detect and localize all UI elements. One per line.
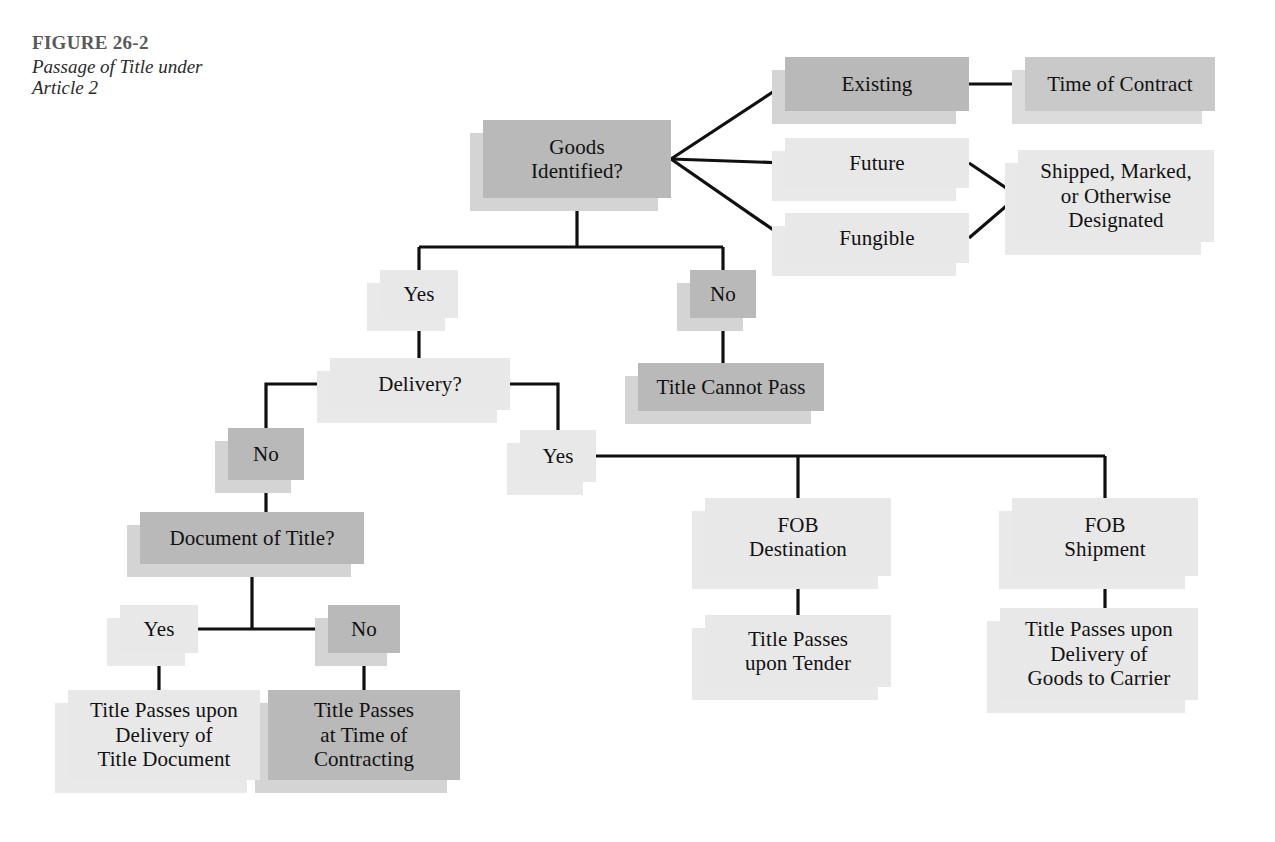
node-label: No: [247, 442, 285, 466]
figure-canvas: FIGURE 26-2 Passage of Title under Artic…: [0, 0, 1275, 842]
node-label: Title Passes upon Delivery of Title Docu…: [84, 698, 244, 771]
node-no-identified[interactable]: No: [690, 270, 756, 318]
node-fob-shipment[interactable]: FOB Shipment: [1012, 498, 1198, 576]
node-yes-document[interactable]: Yes: [120, 605, 198, 653]
node-label: Title Passes at Time of Contracting: [308, 698, 420, 771]
node-title-cannot-pass[interactable]: Title Cannot Pass: [638, 363, 824, 411]
edge-goods-to-existing: [671, 84, 785, 159]
node-label: No: [704, 282, 742, 306]
figure-number: FIGURE 26-2: [32, 32, 202, 54]
edge-delivery-to-yes: [510, 384, 558, 430]
edge-yes-delivery-split: [596, 456, 1105, 498]
edge-goods-to-fungible: [671, 159, 785, 238]
node-yes-identified[interactable]: Yes: [380, 270, 458, 318]
node-no-document[interactable]: No: [328, 605, 400, 653]
node-yes-delivery[interactable]: Yes: [520, 430, 596, 482]
node-title-passes-tender[interactable]: Title Passes upon Tender: [705, 615, 891, 687]
node-no-delivery[interactable]: No: [228, 428, 304, 480]
node-label: Existing: [836, 72, 919, 96]
node-future[interactable]: Future: [785, 138, 969, 188]
node-existing[interactable]: Existing: [785, 57, 969, 111]
figure-caption: FIGURE 26-2 Passage of Title under Artic…: [32, 32, 202, 99]
node-label: Time of Contract: [1041, 72, 1198, 96]
node-title-passes-doc[interactable]: Title Passes upon Delivery of Title Docu…: [68, 690, 260, 780]
node-title-passes-carrier[interactable]: Title Passes upon Delivery of Goods to C…: [1000, 608, 1198, 700]
node-label: Document of Title?: [163, 526, 340, 550]
node-label: FOB Destination: [743, 513, 853, 562]
figure-title-text: Passage of Title under Article 2: [32, 56, 202, 99]
node-label: Yes: [138, 617, 181, 641]
node-label: Title Passes upon Tender: [739, 627, 857, 676]
node-label: Delivery?: [372, 372, 468, 396]
node-shipped-marked[interactable]: Shipped, Marked, or Otherwise Designated: [1018, 150, 1214, 242]
node-fungible[interactable]: Fungible: [785, 213, 969, 263]
node-delivery[interactable]: Delivery?: [330, 358, 510, 410]
node-time-of-contract[interactable]: Time of Contract: [1025, 57, 1215, 111]
node-label: Yes: [537, 444, 580, 468]
node-label: Shipped, Marked, or Otherwise Designated: [1034, 159, 1198, 232]
node-label: Future: [843, 151, 910, 175]
node-fob-destination[interactable]: FOB Destination: [705, 498, 891, 576]
node-label: Title Cannot Pass: [650, 375, 811, 399]
node-label: Title Passes upon Delivery of Goods to C…: [1019, 617, 1179, 690]
node-goods-identified[interactable]: Goods Identified?: [483, 120, 671, 198]
node-label: Yes: [398, 282, 441, 306]
node-document-of-title[interactable]: Document of Title?: [140, 512, 364, 564]
node-label: FOB Shipment: [1058, 513, 1151, 562]
node-label: Fungible: [833, 226, 920, 250]
node-title-passes-time[interactable]: Title Passes at Time of Contracting: [268, 690, 460, 780]
node-label: Goods Identified?: [525, 135, 629, 184]
edge-goods-to-future: [671, 159, 785, 163]
node-label: No: [345, 617, 383, 641]
